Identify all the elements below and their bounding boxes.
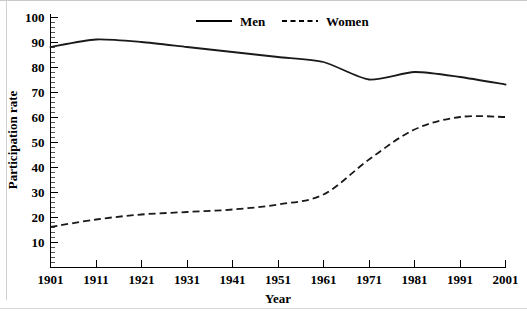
x-tick-label-2001: 2001 [493,272,519,287]
y-tick-label-20: 20 [32,210,45,225]
y-tick-label-60: 60 [32,110,45,125]
x-tick-label-1931: 1931 [174,272,200,287]
x-tick-label-1971: 1971 [356,272,382,287]
x-tick-label-1941: 1941 [220,272,246,287]
chart-container: 100908070605040302010 190119111921193119… [0,0,527,315]
y-tick-label-70: 70 [32,85,45,100]
x-tick-label-1911: 1911 [83,272,108,287]
x-tick-label-1951: 1951 [265,272,291,287]
y-tick-label-40: 40 [32,160,45,175]
y-axis-major-ticks [51,17,58,242]
x-axis-tick-labels: 1901191119211931194119511961197119811991… [38,272,519,287]
x-tick-label-1981: 1981 [402,272,428,287]
x-axis-major-ticks [51,260,506,268]
x-tick-label-1901: 1901 [38,272,64,287]
series-line-women [51,116,506,227]
y-tick-label-10: 10 [32,235,45,250]
x-tick-label-1991: 1991 [447,272,473,287]
series-line-men [51,39,506,84]
legend-label-men: Men [240,14,266,29]
y-tick-label-50: 50 [32,135,45,150]
y-tick-label-90: 90 [32,35,45,50]
legend-label-women: Women [326,14,369,29]
y-tick-label-100: 100 [25,10,45,25]
y-axis-tick-labels: 100908070605040302010 [25,10,45,250]
x-tick-label-1961: 1961 [311,272,337,287]
y-tick-label-30: 30 [32,185,45,200]
x-tick-label-1921: 1921 [129,272,155,287]
y-axis-title: Participation rate [5,90,20,189]
chart-legend: Men Women [196,14,369,29]
x-axis-title: Year [265,291,291,306]
y-tick-label-80: 80 [32,60,45,75]
line-chart-plot: 100908070605040302010 190119111921193119… [0,0,527,315]
